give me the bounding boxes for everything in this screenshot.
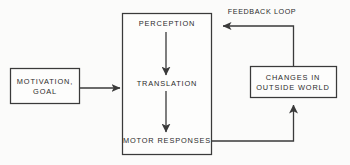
feedback-loop-label: FEEDBACK LOOP: [228, 7, 297, 17]
flowchart-diagram: MOTIVATION, GOAL PERCEPTION TRANSLATION …: [0, 0, 350, 165]
motivation-line-1: MOTIVATION,: [10, 77, 80, 87]
feedback-loop-path: [223, 26, 294, 67]
motor-to-outside-world-path: [212, 105, 294, 141]
perception-label: PERCEPTION: [139, 19, 196, 29]
motivation-line-2: GOAL: [10, 86, 80, 96]
outside-world-label: CHANGES IN OUTSIDE WORLD: [256, 73, 329, 92]
outside-world-line-1: CHANGES IN: [256, 73, 329, 83]
outside-world-line-2: OUTSIDE WORLD: [256, 82, 329, 92]
motor-responses-label: MOTOR RESPONSES: [123, 136, 211, 146]
motivation-goal-label: MOTIVATION, GOAL: [10, 77, 80, 96]
translation-label: TRANSLATION: [137, 79, 198, 89]
